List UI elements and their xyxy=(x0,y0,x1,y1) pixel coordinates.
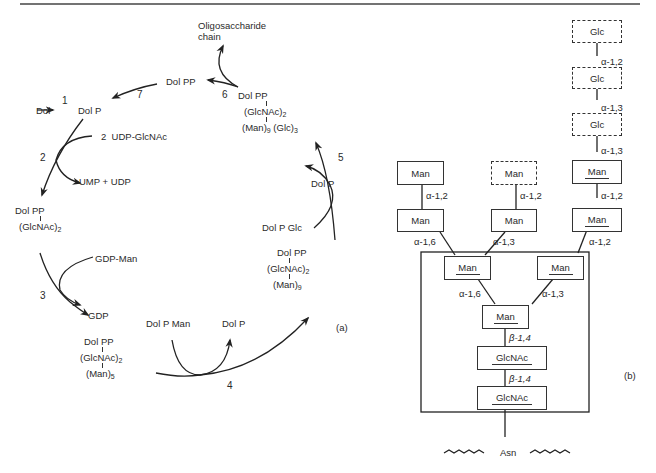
dol-p-step5-label: Dol P xyxy=(311,178,334,189)
box-label: Man xyxy=(411,215,429,226)
bond-center-man-man: α-1,2 xyxy=(520,190,542,201)
arrow-step-3 xyxy=(40,253,88,315)
step-1-label: 1 xyxy=(62,95,68,106)
gdp-man-label: GDP-Man xyxy=(95,253,137,264)
man-box-left-mid: Man xyxy=(397,209,444,232)
node-bot2-sub: 3 xyxy=(294,127,298,134)
ump-udp-label: UMP + UDP xyxy=(79,176,131,187)
asn-label: Asn xyxy=(500,447,516,458)
node-mid: (GlcNAc) xyxy=(80,352,119,363)
dol-pp-glcnac2-man5: Dol PP (GlcNAc)2 (Man)5 xyxy=(84,336,122,379)
bond-glc-low-man: α-1,3 xyxy=(601,145,623,156)
step-2-label: 2 xyxy=(40,152,46,163)
dol-pp-glcnac2-man9-glc3: Dol PP (GlcNAc)2 (Man)9 (Glc)3 xyxy=(236,90,298,133)
step-7-label: 7 xyxy=(137,89,143,100)
box-label: Glc xyxy=(590,73,604,84)
node-bot2: (Glc) xyxy=(273,122,294,133)
dol-pp-glcnac2-man9: Dol PP (GlcNAc)2 (Man)9 xyxy=(275,247,309,290)
box-label: Man xyxy=(588,166,606,177)
node-bot1-sub: 9 xyxy=(267,127,271,134)
bond-right-man-man: α-1,2 xyxy=(601,190,623,201)
arrow-step-6 xyxy=(208,80,238,87)
step-5-label: 5 xyxy=(338,152,344,163)
peptide-chain-left xyxy=(444,450,484,453)
box-label: Man xyxy=(505,168,523,179)
node-bot1: (Man) xyxy=(242,122,267,133)
step-6-label: 6 xyxy=(222,89,228,100)
man-box-center-top: Man xyxy=(491,161,537,185)
bond-left-to-core: α-1,6 xyxy=(414,236,436,247)
bond-core-left-base: α-1,6 xyxy=(459,288,481,299)
udp-glcnac-text: UDP-GlcNAc xyxy=(112,131,167,142)
oligo-line2: chain xyxy=(198,31,266,42)
man-box-center-mid: Man xyxy=(491,209,537,232)
node-bot: (Man) xyxy=(273,279,298,290)
node-sub: (GlcNAc) xyxy=(19,221,58,232)
node-top: Dol PP xyxy=(84,336,122,347)
bond-glc-top-mid: α-1,2 xyxy=(601,56,623,67)
box-label: Man xyxy=(458,262,476,273)
glcnac-box-upper: GlcNAc xyxy=(477,346,547,370)
dol-pp-glcnac2: Dol PP (GlcNAc)2 xyxy=(15,205,61,232)
node-bot: (Man) xyxy=(86,368,111,379)
arrow-gdp xyxy=(59,257,93,305)
box-label: Glc xyxy=(590,26,604,37)
box-label: Man xyxy=(411,168,429,179)
dol-p-step4-label: Dol P xyxy=(222,318,245,329)
node-top: Dol PP xyxy=(275,247,309,258)
man-box-left-top: Man xyxy=(397,161,444,185)
box-label: Man xyxy=(551,262,569,273)
step-3-label: 3 xyxy=(40,290,46,301)
udp-glcnac-label: 2 UDP-GlcNAc xyxy=(101,131,167,142)
node-mid-sub: 2 xyxy=(119,357,123,364)
node-mid: (GlcNAc) xyxy=(244,106,283,117)
glc-box-low: Glc xyxy=(572,113,622,136)
bond-glc-mid-low: α-1,3 xyxy=(601,102,623,113)
node-top: Dol PP xyxy=(236,90,298,101)
box-label: Glc xyxy=(590,119,604,130)
bond-glcnac-glcnac: β-1,4 xyxy=(509,373,531,384)
glcnac-box-lower: GlcNAc xyxy=(477,386,547,410)
arrow-step-2 xyxy=(42,119,83,195)
bond-core-right-base: α-1,3 xyxy=(542,288,564,299)
man-box-core-base: Man xyxy=(482,305,529,329)
dol-label: Dol xyxy=(36,105,50,116)
oligo-line1: Oligosaccharide xyxy=(198,20,266,31)
oligosaccharide-chain-label: Oligosaccharide chain xyxy=(198,20,266,42)
bond-base-glcnac: β-1,4 xyxy=(509,332,531,343)
arrow-step-7 xyxy=(113,84,157,98)
man-box-right-mid: Man xyxy=(572,208,622,232)
glc-box-mid: Glc xyxy=(572,67,622,89)
node-bot-sub: 9 xyxy=(298,284,302,291)
arrow-oligosaccharide xyxy=(219,46,238,87)
node-sub-n: 2 xyxy=(58,226,62,233)
node-mid-sub: 2 xyxy=(306,268,310,275)
diagram-lines xyxy=(0,0,656,473)
glc-box-top: Glc xyxy=(572,20,622,43)
peptide-chain-right xyxy=(530,450,570,453)
node-bot-sub: 5 xyxy=(111,373,115,380)
panel-a-label: (a) xyxy=(336,322,348,333)
node-mid-sub: 2 xyxy=(283,111,287,118)
node-top: Dol PP xyxy=(15,205,61,216)
bond-center-to-core: α-1,3 xyxy=(493,236,515,247)
man-box-core-right: Man xyxy=(537,256,584,280)
dol-p-label: Dol P xyxy=(78,105,101,116)
dol-p-glc-label: Dol P Glc xyxy=(262,222,302,233)
man-box-core-left: Man xyxy=(444,256,491,280)
dol-p-man-label: Dol P Man xyxy=(146,318,190,329)
box-label: GlcNAc xyxy=(496,352,528,363)
box-label: GlcNAc xyxy=(496,392,528,403)
box-label: Man xyxy=(496,311,514,322)
gdp-label: GDP xyxy=(88,310,109,321)
panel-b-label: (b) xyxy=(624,370,636,381)
arrow-dol-p-man xyxy=(172,340,230,375)
box-label: Man xyxy=(588,214,606,225)
bond-right-to-core: α-1,2 xyxy=(589,236,611,247)
step-4-label: 4 xyxy=(227,380,233,391)
node-mid: (GlcNAc) xyxy=(267,263,306,274)
dol-pp-released: Dol PP xyxy=(166,76,196,87)
box-label: Man xyxy=(505,215,523,226)
step-2b-label: 2 xyxy=(101,131,106,142)
man-box-right-top: Man xyxy=(572,160,622,184)
